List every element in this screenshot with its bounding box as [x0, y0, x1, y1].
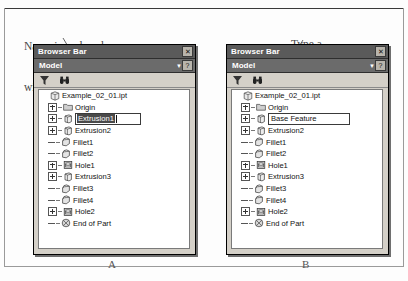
expander-dash-icon [241, 185, 248, 192]
close-icon[interactable]: ✕ [182, 46, 193, 57]
expander-plus-icon[interactable] [48, 114, 57, 123]
expander-plus-icon[interactable] [241, 172, 250, 181]
tree-connector [58, 165, 62, 166]
tree-row[interactable]: Extrusion2 [39, 125, 189, 137]
tree-row[interactable]: Hole2 [39, 206, 189, 218]
binoculars-icon[interactable] [59, 75, 70, 86]
tree-item-label: End of Part [266, 218, 304, 229]
tree-row[interactable]: Origin [232, 102, 382, 114]
model-dropdown-a[interactable]: Model ▼ ? [34, 59, 195, 73]
expander-plus-icon[interactable] [48, 126, 57, 135]
tree-row[interactable]: Hole1 [232, 160, 382, 172]
tree-item-label: Fillet4 [73, 195, 93, 206]
fillet-icon [254, 184, 264, 194]
tree-connector [249, 200, 253, 201]
tree-connector [58, 107, 62, 108]
tree-row[interactable]: Extrusion3 [232, 171, 382, 183]
tree-item-label: Extrusion3 [75, 171, 111, 182]
expander-plus-icon[interactable] [241, 207, 250, 216]
figure-bottom-rule [4, 266, 404, 267]
tree-row[interactable]: Hole1 [39, 160, 189, 172]
tree-item-label: Hole2 [268, 206, 288, 217]
expander-dash-icon [241, 150, 248, 157]
tree-row-editing[interactable]: Base Feature [232, 113, 382, 125]
tree-row[interactable]: Fillet2 [39, 148, 189, 160]
funnel-icon[interactable] [39, 75, 50, 86]
tree-item-label: Fillet2 [73, 148, 93, 159]
model-tree-b[interactable]: Example_02_01.ipt Origin Ba [231, 89, 383, 249]
model-dropdown-b[interactable]: Model ▼ ? [227, 59, 388, 73]
fillet-icon [254, 137, 264, 147]
fillet-icon [61, 137, 71, 147]
tree-row[interactable]: End of Part [39, 218, 189, 230]
folder-icon [63, 102, 73, 112]
browser-toolbar-b [227, 73, 388, 88]
tree-row[interactable]: Fillet3 [232, 183, 382, 195]
tree-row[interactable]: Hole2 [232, 206, 382, 218]
help-icon[interactable]: ? [375, 60, 386, 71]
browser-toolbar-a [34, 73, 195, 88]
close-icon[interactable]: ✕ [375, 46, 386, 57]
hole-icon [63, 207, 73, 217]
tree-row[interactable]: End of Part [232, 218, 382, 230]
rename-textbox[interactable]: Extrusion1 [75, 113, 141, 125]
hole-icon [63, 160, 73, 170]
tree-row[interactable]: Extrusion2 [232, 125, 382, 137]
model-dropdown-label-a: Model [39, 59, 174, 72]
fillet-icon [254, 149, 264, 159]
tree-row[interactable]: Fillet2 [232, 148, 382, 160]
tree-item-label: Origin [268, 102, 288, 113]
tree-row[interactable]: Fillet4 [232, 194, 382, 206]
model-dropdown-label-b: Model [232, 59, 367, 72]
expander-plus-icon[interactable] [241, 114, 250, 123]
figure-right-rule [403, 8, 404, 266]
tree-row[interactable]: Origin [39, 102, 189, 114]
tree-row-root[interactable]: Example_02_01.ipt [39, 90, 189, 102]
fillet-icon [61, 184, 71, 194]
tree-connector [249, 188, 253, 189]
tree-connector [251, 107, 255, 108]
extrusion-icon [256, 114, 266, 124]
funnel-icon[interactable] [232, 75, 243, 86]
titlebar-b: Browser Bar ✕ [227, 45, 388, 59]
extrusion-icon [256, 172, 266, 182]
expander-plus-icon[interactable] [241, 126, 250, 135]
tree-item-label: Fillet2 [266, 148, 286, 159]
fillet-icon [61, 195, 71, 205]
tree-row-root[interactable]: Example_02_01.ipt [232, 90, 382, 102]
tree-item-label: Fillet1 [266, 137, 286, 148]
titlebar-a: Browser Bar ✕ [34, 45, 195, 59]
tree-connector [56, 188, 60, 189]
tree-row[interactable]: Fillet4 [39, 194, 189, 206]
model-tree-a[interactable]: Example_02_01.ipt Origin [38, 89, 190, 249]
tree-item-label: Fillet1 [73, 137, 93, 148]
tree-connector [251, 130, 255, 131]
browser-bar-panel-a: Browser Bar ✕ Model ▼ ? [33, 44, 196, 255]
expander-plus-icon[interactable] [48, 172, 57, 181]
tree-connector [251, 165, 255, 166]
tree-item-label: Fillet4 [266, 195, 286, 206]
help-icon[interactable]: ? [182, 60, 193, 71]
binoculars-icon[interactable] [252, 75, 263, 86]
rename-textbox[interactable]: Base Feature [268, 113, 350, 125]
expander-plus-icon[interactable] [241, 161, 250, 170]
expander-dash-icon [48, 139, 55, 146]
tree-expander-spacer [42, 92, 49, 99]
text-caret [116, 115, 117, 123]
expander-plus-icon[interactable] [241, 103, 250, 112]
expander-plus-icon[interactable] [48, 207, 57, 216]
tree-row[interactable]: Fillet3 [39, 183, 189, 195]
expander-plus-icon[interactable] [48, 161, 57, 170]
tree-connector [58, 211, 62, 212]
tree-row-editing[interactable]: Extrusion1 [39, 113, 189, 125]
titlebar-title-b: Browser Bar [231, 45, 375, 58]
tree-row[interactable]: Fillet1 [232, 136, 382, 148]
tree-row[interactable]: Fillet1 [39, 136, 189, 148]
expander-dash-icon [241, 220, 248, 227]
figure-left-rule [4, 8, 5, 266]
figure-label-a: A [108, 258, 116, 270]
tree-row[interactable]: Extrusion3 [39, 171, 189, 183]
expander-plus-icon[interactable] [48, 103, 57, 112]
browser-bar-panel-b: Browser Bar ✕ Model ▼ ? [226, 44, 389, 255]
figure-label-b: B [302, 258, 309, 270]
